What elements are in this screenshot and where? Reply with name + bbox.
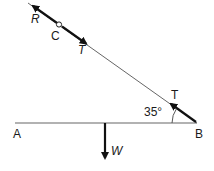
label-angle: 35° bbox=[144, 105, 162, 119]
label-r: R bbox=[31, 12, 40, 26]
tension-arrow-t-upper bbox=[62, 27, 86, 44]
label-w: W bbox=[111, 144, 124, 158]
tension-arrow-t-lower bbox=[171, 104, 196, 122]
point-c-circle bbox=[56, 22, 61, 27]
label-b: B bbox=[195, 127, 203, 141]
label-a: A bbox=[13, 127, 21, 141]
label-c: C bbox=[51, 29, 60, 43]
label-t-lower: T bbox=[171, 88, 179, 102]
angle-arc bbox=[172, 109, 177, 123]
label-t-upper: T bbox=[78, 43, 87, 57]
force-diagram: R C T T 35° A B W bbox=[0, 0, 214, 171]
